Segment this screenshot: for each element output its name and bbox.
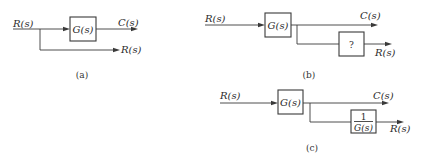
diagram-c-branch-line — [310, 103, 351, 122]
diagram-c-inverse-block-numerator: 1 — [361, 112, 367, 122]
diagram-c-inverse-block-denominator: G(s) — [354, 123, 373, 133]
diagram-a-branch-output-label: R(s) — [120, 44, 142, 55]
diagram-c-input-label: R(s) — [219, 90, 241, 101]
diagram-c-branch-output-label: R(s) — [389, 123, 411, 134]
diagram-b-caption: (b) — [303, 70, 316, 80]
diagram-c: R(s) G(s) C(s) 1 G(s) R(s) (c) — [219, 90, 411, 153]
arrow-right-icon — [63, 27, 70, 31]
diagram-a: R(s) G(s) C(s) R(s) (a) — [12, 17, 142, 80]
diagram-b-branch-output-label: R(s) — [374, 47, 396, 58]
block-diagram-canvas: R(s) G(s) C(s) R(s) (a) R(s) G(s) C(s) ?… — [0, 0, 421, 162]
arrow-right-icon — [258, 23, 265, 27]
arrow-right-icon — [385, 42, 392, 46]
diagram-b: R(s) G(s) C(s) ? R(s) (b) — [204, 10, 396, 80]
arrow-right-icon — [271, 101, 278, 105]
diagram-b-input-label: R(s) — [204, 13, 226, 24]
diagram-c-caption: (c) — [306, 143, 318, 153]
diagram-a-caption: (a) — [76, 70, 88, 80]
diagram-b-unknown-block-label: ? — [349, 40, 354, 50]
arrow-right-icon — [371, 23, 378, 27]
diagram-c-g-block-label: G(s) — [280, 97, 301, 108]
diagram-b-g-block-label: G(s) — [268, 20, 289, 31]
diagram-a-g-block-label: G(s) — [73, 24, 94, 35]
diagram-a-output-label: C(s) — [118, 17, 139, 28]
diagram-b-branch-line — [297, 25, 339, 44]
diagram-c-output-label: C(s) — [373, 90, 394, 101]
arrow-right-icon — [113, 48, 120, 52]
diagram-b-output-label: C(s) — [360, 10, 381, 21]
diagram-a-input-label: R(s) — [12, 18, 34, 29]
arrow-right-icon — [382, 101, 389, 105]
